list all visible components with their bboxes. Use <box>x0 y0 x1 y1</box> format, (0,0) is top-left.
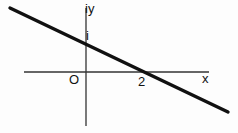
origin-label: O <box>69 73 79 86</box>
y-intercept-label: i <box>86 29 89 42</box>
y-axis-label: iy <box>85 2 94 15</box>
plotted-line <box>10 8 228 112</box>
x-intercept-label: 2 <box>138 75 145 88</box>
x-axis-label: x <box>202 72 209 85</box>
graph-canvas <box>0 0 238 133</box>
line-graph-figure: iy i O 2 x <box>0 0 238 133</box>
